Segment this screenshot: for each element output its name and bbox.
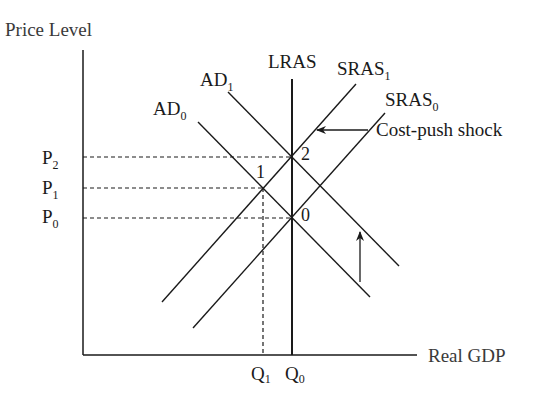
p2-label: P2: [42, 147, 59, 172]
p1-label: P1: [42, 177, 59, 202]
q1-label: Q1: [251, 363, 271, 386]
sras1-label: SRAS1: [337, 58, 391, 83]
ad-as-diagram: Price Level Real GDP LRAS AD1 AD0 SRAS1 …: [0, 0, 549, 406]
point-0-label: 0: [301, 205, 310, 225]
lras-label: LRAS: [268, 51, 317, 72]
point-2-label: 2: [301, 144, 310, 164]
sras0-label: SRAS0: [385, 89, 439, 114]
ad0-label: AD0: [153, 98, 186, 123]
q0-label: Q0: [285, 363, 305, 386]
x-axis-label: Real GDP: [428, 345, 506, 366]
p0-label: P0: [42, 206, 59, 231]
y-axis-label: Price Level: [5, 19, 92, 40]
cost-push-label: Cost-push shock: [376, 119, 503, 140]
point-1-label: 1: [256, 162, 265, 182]
ad1-label: AD1: [200, 69, 233, 94]
